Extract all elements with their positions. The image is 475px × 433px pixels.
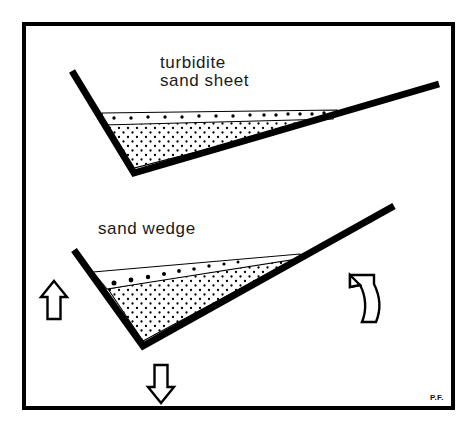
geology-diagram-svg: turbidite sand sheet	[0, 0, 475, 433]
label-sand-sheet: sand sheet	[160, 71, 249, 90]
figure-root: turbidite sand sheet	[0, 0, 475, 433]
artist-signature: P.F.	[430, 393, 444, 402]
page-background	[0, 0, 475, 433]
label-sand-wedge: sand wedge	[98, 219, 196, 238]
label-turbidite: turbidite	[160, 53, 226, 72]
